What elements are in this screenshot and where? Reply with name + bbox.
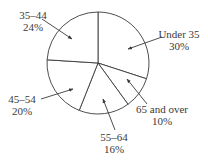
pie-slices (47, 12, 149, 114)
label-55-64-pct: 16% (100, 143, 128, 155)
label-35-44-pct: 24% (19, 21, 47, 33)
label-65-and-over: 65 and over 10% (136, 103, 188, 127)
label-45-54-pct: 20% (8, 105, 36, 117)
label-55-64: 55–64 16% (100, 131, 128, 155)
label-under-35: Under 35 30% (158, 28, 199, 52)
label-65-and-over-name: 65 and over (136, 103, 188, 115)
label-35-44-name: 35–44 (19, 9, 47, 21)
label-under-35-name: Under 35 (158, 28, 199, 40)
label-35-44: 35–44 24% (19, 9, 47, 33)
pie-slice-35-44 (47, 12, 98, 63)
label-45-54: 45–54 20% (8, 93, 36, 117)
label-65-and-over-pct: 10% (136, 115, 188, 127)
label-under-35-pct: 30% (158, 40, 199, 52)
label-45-54-name: 45–54 (8, 93, 36, 105)
label-55-64-name: 55–64 (100, 131, 128, 143)
